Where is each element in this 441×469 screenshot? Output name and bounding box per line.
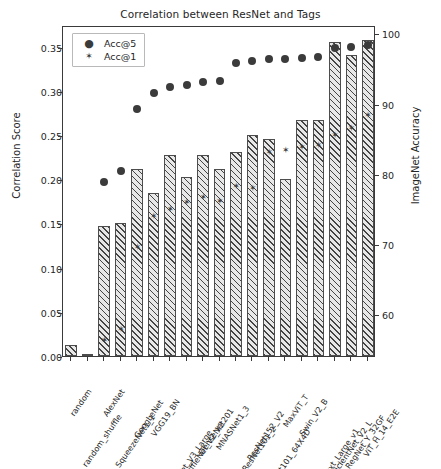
x-tick-mark — [334, 357, 335, 361]
legend-label-acc1: Acc@1 — [100, 51, 136, 62]
acc1-point: ✶ — [150, 213, 157, 220]
secondary-y-tick-label: 60 — [382, 309, 394, 320]
legend-item-acc5: ● Acc@5 — [78, 37, 136, 50]
x-tick-mark — [153, 357, 154, 361]
bar — [296, 120, 308, 356]
secondary-y-tick-mark — [375, 245, 379, 246]
x-tick-mark — [251, 357, 252, 361]
x-tick-mark — [136, 357, 137, 361]
acc1-point: ✶ — [183, 199, 190, 206]
x-tick-mark — [120, 357, 121, 361]
star-marker-icon: ✶ — [78, 50, 100, 63]
acc5-point — [248, 57, 256, 65]
bar — [263, 139, 275, 356]
bar — [65, 345, 77, 356]
acc1-point: ✶ — [167, 205, 174, 212]
acc5-point — [298, 54, 306, 62]
chart-legend: ● Acc@5 ✶ Acc@1 — [72, 33, 145, 67]
series-layer: ✶✶✶✶✶✶✶✶✶✶✶✶✶✶✶✶✶ — [63, 27, 374, 356]
acc1-point: ✶ — [315, 141, 322, 148]
acc5-point — [331, 44, 339, 52]
x-tick-mark — [284, 357, 285, 361]
secondary-y-tick-mark — [375, 315, 379, 316]
y-tick-mark — [58, 357, 62, 358]
plot-area: ✶✶✶✶✶✶✶✶✶✶✶✶✶✶✶✶✶ ● Acc@5 ✶ Acc@1 — [62, 26, 375, 357]
acc5-point — [314, 53, 322, 61]
acc5-point — [281, 55, 289, 63]
chart-figure: Correlation between ResNet and Tags Corr… — [0, 0, 441, 469]
x-tick-mark — [317, 357, 318, 361]
bar — [115, 223, 127, 356]
acc1-point: ✶ — [348, 124, 355, 131]
secondary-y-tick-mark — [375, 34, 379, 35]
bar — [164, 155, 176, 356]
acc1-point: ✶ — [282, 146, 289, 153]
acc5-point — [117, 167, 125, 175]
acc1-point: ✶ — [101, 337, 108, 344]
bar — [131, 169, 143, 356]
x-tick-mark — [70, 357, 71, 361]
bar — [313, 120, 325, 356]
secondary-y-tick-mark — [375, 105, 379, 106]
acc5-point — [265, 55, 273, 63]
acc5-point — [133, 105, 141, 113]
acc5-point — [150, 89, 158, 97]
acc5-point — [232, 59, 240, 67]
legend-label-acc5: Acc@5 — [100, 38, 136, 49]
acc1-point: ✶ — [364, 112, 371, 119]
x-tick-mark — [235, 357, 236, 361]
acc1-point: ✶ — [117, 325, 124, 332]
bar — [329, 42, 341, 356]
acc5-point — [199, 78, 207, 86]
x-tick-mark — [186, 357, 187, 361]
legend-item-acc1: ✶ Acc@1 — [78, 50, 136, 63]
secondary-y-tick-label: 90 — [382, 99, 394, 110]
x-tick-mark — [202, 357, 203, 361]
secondary-y-tick-mark — [375, 175, 379, 176]
secondary-y-axis-label: ImageNet Accuracy — [410, 81, 421, 231]
x-tick-mark — [169, 357, 170, 361]
acc1-point: ✶ — [216, 197, 223, 204]
circle-marker-icon: ● — [78, 37, 100, 50]
x-tick-mark — [87, 357, 88, 361]
acc1-point: ✶ — [265, 148, 272, 155]
bar — [280, 179, 292, 356]
acc5-point — [100, 178, 108, 186]
x-tick-mark — [268, 357, 269, 361]
acc5-point — [347, 43, 355, 51]
y-axis-label: Correlation Score — [11, 86, 22, 226]
acc1-point: ✶ — [249, 184, 256, 191]
x-tick-mark — [301, 357, 302, 361]
secondary-y-tick-label: 70 — [382, 239, 394, 250]
acc5-point — [183, 81, 191, 89]
secondary-y-tick-label: 80 — [382, 169, 394, 180]
x-tick-mark — [367, 357, 368, 361]
bar — [346, 55, 358, 356]
secondary-y-tick-label: 100 — [382, 29, 400, 40]
acc1-point: ✶ — [331, 131, 338, 138]
bar — [82, 354, 94, 356]
acc5-point — [216, 77, 224, 85]
acc1-point: ✶ — [134, 244, 141, 251]
bar — [197, 155, 209, 356]
acc1-point: ✶ — [232, 183, 239, 190]
acc1-point: ✶ — [200, 194, 207, 201]
x-tick-label: random — [86, 362, 111, 393]
bar — [362, 40, 374, 356]
x-tick-mark — [350, 357, 351, 361]
acc5-point — [364, 41, 372, 49]
acc5-point — [166, 83, 174, 91]
x-tick-mark — [219, 357, 220, 361]
bar — [247, 135, 259, 356]
acc1-point: ✶ — [298, 143, 305, 150]
x-tick-mark — [103, 357, 104, 361]
chart-title: Correlation between ResNet and Tags — [0, 8, 441, 20]
